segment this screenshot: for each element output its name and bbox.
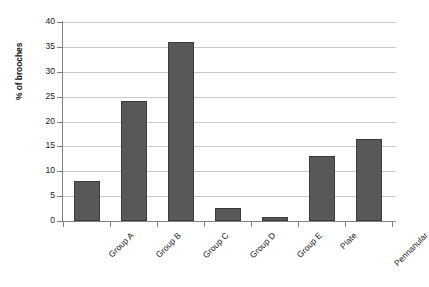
gridline (63, 171, 396, 172)
y-axis-label: 5 (15, 191, 55, 200)
y-axis-label: 20 (15, 117, 55, 126)
x-axis-label: Pennanular (392, 231, 429, 268)
bar (168, 42, 194, 221)
gridline (63, 122, 396, 123)
gridline (63, 196, 396, 197)
gridline (63, 72, 396, 73)
y-axis-label: 10 (15, 166, 55, 175)
bar (74, 181, 100, 221)
plot-area (63, 22, 392, 221)
x-axis-tick (63, 222, 64, 227)
gridline (63, 47, 396, 48)
x-axis-tick (392, 222, 393, 227)
gridline (63, 146, 396, 147)
y-axis-label: 15 (15, 141, 55, 150)
x-axis-tick (251, 222, 252, 227)
gridline (63, 97, 396, 98)
bar (121, 101, 147, 221)
y-axis-label: 25 (15, 92, 55, 101)
x-axis-label: Group A (107, 231, 135, 259)
x-axis-tick (204, 222, 205, 227)
x-axis-tick (110, 222, 111, 227)
y-axis-label: 30 (15, 67, 55, 76)
x-axis-label: Group C (201, 231, 230, 260)
bar (356, 139, 382, 221)
y-axis-label: 40 (15, 17, 55, 26)
y-axis-label: 35 (15, 42, 55, 51)
x-axis-tick (157, 222, 158, 227)
bar (309, 156, 335, 221)
bar (215, 208, 241, 221)
x-axis-label: Group E (295, 231, 323, 259)
y-axis-label: 0 (15, 216, 55, 225)
x-axis-line (62, 221, 393, 222)
x-axis-label: Group D (248, 231, 277, 260)
x-axis-tick (345, 222, 346, 227)
x-axis-label: Group B (154, 231, 182, 259)
gridline (63, 22, 396, 23)
x-axis-label: Plate (338, 231, 358, 251)
x-axis-tick (298, 222, 299, 227)
